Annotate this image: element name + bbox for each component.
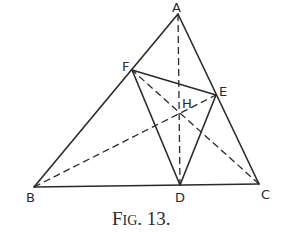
side-bc [34, 184, 259, 187]
side-ab [34, 14, 178, 187]
label-c: C [261, 187, 270, 202]
label-b: B [26, 190, 35, 205]
altitude-cf [132, 70, 259, 184]
label-d: D [175, 190, 185, 205]
label-a: A [172, 0, 181, 15]
label-f: F [122, 59, 129, 74]
segment-fe [132, 70, 216, 95]
label-h: H [182, 96, 192, 111]
segment-fd [132, 70, 180, 185]
orthocenter-diagram: A B C D E F H FIG. 13. [0, 0, 290, 243]
altitude-ad [178, 14, 180, 185]
label-e: E [219, 84, 227, 99]
figure-caption: FIG. 13. [112, 208, 171, 229]
